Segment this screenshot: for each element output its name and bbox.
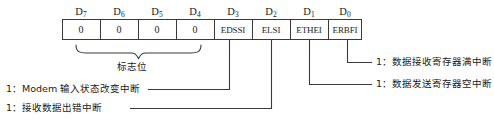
bit-header-d3-subscript: 3 bbox=[235, 10, 239, 19]
flag-bits-brace bbox=[76, 45, 201, 59]
annotation-edssi-text: 1：Modem 输入状态改变中断 bbox=[6, 83, 140, 94]
bit-header-d6: D6 bbox=[100, 5, 138, 18]
bit-header-d3: D3 bbox=[214, 5, 252, 18]
register-cell-d1: ETHEI bbox=[290, 20, 328, 40]
annotation-erbfi: 1：数据接收寄存器满中断 bbox=[376, 56, 492, 68]
register-cell-d5: 0 bbox=[138, 20, 176, 40]
bit-header-d1-label: D bbox=[303, 6, 311, 17]
bit-header-d7-label: D bbox=[75, 6, 83, 17]
bit-header-d0-subscript: 0 bbox=[347, 10, 351, 19]
bit-header-d5-label: D bbox=[151, 6, 159, 17]
bit-header-d5-subscript: 5 bbox=[159, 10, 163, 19]
bit-header-d3-label: D bbox=[227, 6, 235, 17]
leader-erbfi bbox=[348, 40, 373, 63]
bit-header-d4: D4 bbox=[176, 5, 214, 18]
figure-root: D7 D6 D5 D4 D3 D2 D1 D0 0 0 0 0 EDSSI EL… bbox=[0, 0, 494, 127]
bit-header-d5: D5 bbox=[138, 5, 176, 18]
register-cell-d6: 0 bbox=[100, 20, 138, 40]
bit-header-d2-subscript: 2 bbox=[273, 10, 277, 19]
bit-header-d0: D0 bbox=[328, 5, 362, 18]
bit-header-d4-label: D bbox=[189, 6, 197, 17]
bit-header-d7-subscript: 7 bbox=[83, 10, 87, 19]
annotation-edssi: 1：Modem 输入状态改变中断 bbox=[6, 83, 140, 95]
bit-header-d1: D1 bbox=[290, 5, 328, 18]
bit-header-d6-subscript: 6 bbox=[121, 10, 125, 19]
annotation-elsi-text: 1：接收数据出错中断 bbox=[6, 102, 102, 113]
register-cell-d4: 0 bbox=[176, 20, 214, 40]
annotation-ethei-text: 1：数据发送寄存器空中断 bbox=[376, 78, 492, 89]
leader-elsi bbox=[130, 40, 272, 109]
bit-header-d1-subscript: 1 bbox=[311, 10, 315, 19]
flag-bits-label: 标志位 bbox=[117, 61, 147, 73]
register-cell-d7: 0 bbox=[62, 20, 100, 40]
bit-header-d0-label: D bbox=[339, 6, 347, 17]
annotation-erbfi-text: 1：数据接收寄存器满中断 bbox=[376, 56, 492, 67]
bit-header-d4-subscript: 4 bbox=[197, 10, 201, 19]
bit-header-d6-label: D bbox=[113, 6, 121, 17]
register-cell-d3: EDSSI bbox=[214, 20, 252, 40]
register-cell-d2: ELSI bbox=[252, 20, 290, 40]
register-cell-d0: ERBFI bbox=[328, 20, 362, 40]
bit-header-d2-label: D bbox=[265, 6, 273, 17]
annotation-ethei: 1：数据发送寄存器空中断 bbox=[376, 78, 492, 90]
bit-header-d7: D7 bbox=[62, 5, 100, 18]
bit-header-d2: D2 bbox=[252, 5, 290, 18]
leader-edssi bbox=[148, 40, 230, 90]
annotation-elsi: 1：接收数据出错中断 bbox=[6, 102, 102, 114]
